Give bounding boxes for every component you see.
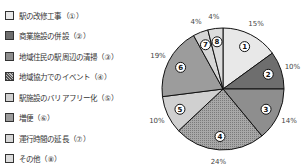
slice-number: 5: [178, 106, 183, 114]
slice-number: 4: [218, 133, 223, 141]
slice-number: 1: [242, 43, 247, 51]
slice-number: 8: [215, 38, 220, 46]
slice-number: 3: [264, 106, 269, 114]
pie-slices: [162, 28, 284, 150]
slice-percent-label: 15%: [248, 20, 264, 28]
slice-percent-label: 4%: [191, 18, 202, 26]
slice-number: 7: [203, 41, 208, 49]
slice-percent-label: 19%: [150, 52, 166, 60]
slice-percent-label: 10%: [285, 63, 301, 71]
slice-percent-label: 14%: [281, 117, 297, 125]
slice-percent-label: 10%: [149, 117, 165, 125]
slice-percent-label: 4%: [208, 13, 219, 21]
pie-chart: 115%210%314%424%510%619%74%84%: [0, 0, 302, 168]
slice-percent-label: 24%: [211, 158, 227, 166]
slice-number: 6: [178, 64, 183, 72]
slice-number: 2: [266, 71, 271, 79]
